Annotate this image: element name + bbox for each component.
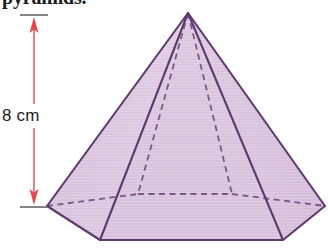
texture-overlay [47,13,325,240]
hexagonal-pyramid-figure [0,0,330,248]
height-dimension-label: 8 cm [2,106,40,126]
figure-page: pyramids. [0,0,330,248]
pyramid-body [47,13,325,240]
